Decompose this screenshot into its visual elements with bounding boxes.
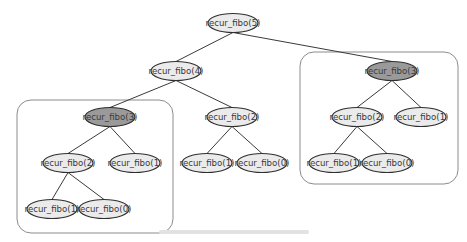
figure-caption (0, 228, 467, 236)
tree-node: recur_fibo(1) (394, 108, 449, 127)
tree-edge (110, 127, 135, 154)
tree-edge (357, 81, 392, 108)
node-label: recur_fibo(0) (360, 158, 415, 168)
tree-node-highlighted: recur_fibo(3) (83, 108, 138, 127)
tree-node: recur_fibo(0) (235, 154, 290, 173)
tree-edge (233, 33, 392, 62)
node-label: recur_fibo(0) (235, 158, 290, 168)
tree-node: recur_fibo(1) (180, 154, 235, 173)
caption-illegible-placeholder (159, 230, 309, 234)
tree-node: recur_fibo(1) (25, 200, 80, 219)
node-label: recur_fibo(2) (41, 158, 96, 168)
tree-node: recur_fibo(2) (330, 108, 385, 127)
tree-node: recur_fibo(5) (206, 14, 261, 33)
tree-node-highlighted: recur_fibo(3) (365, 62, 420, 81)
tree-node: recur_fibo(1) (108, 154, 163, 173)
tree-edge (110, 81, 176, 108)
tree-edge (357, 127, 387, 154)
tree-node: recur_fibo(2) (41, 154, 96, 173)
node-label: recur_fibo(1) (108, 158, 163, 168)
tree-node: recur_fibo(4) (149, 62, 204, 81)
node-label: recur_fibo(1) (394, 112, 449, 122)
call-tree-diagram: recur_fibo(5)recur_fibo(4)recur_fibo(3)r… (0, 0, 467, 242)
tree-edge (334, 127, 357, 154)
node-label: recur_fibo(4) (149, 66, 204, 76)
tree-edge (232, 127, 262, 154)
node-label: recur_fibo(1) (180, 158, 235, 168)
node-label: recur_fibo(3) (83, 112, 138, 122)
node-label: recur_fibo(3) (365, 66, 420, 76)
node-label: recur_fibo(1) (25, 204, 80, 214)
tree-edge (68, 173, 104, 200)
node-label: recur_fibo(2) (205, 112, 260, 122)
node-label: recur_fibo(1) (307, 158, 362, 168)
node-label: recur_fibo(0) (77, 204, 132, 214)
tree-node: recur_fibo(1) (307, 154, 362, 173)
tree-node: recur_fibo(0) (77, 200, 132, 219)
tree-edge (52, 173, 68, 200)
tree-edge (176, 33, 233, 62)
tree-edge (68, 127, 110, 154)
tree-node: recur_fibo(2) (205, 108, 260, 127)
node-label: recur_fibo(2) (330, 112, 385, 122)
tree-edge (176, 81, 232, 108)
tree-edge (392, 81, 421, 108)
node-label: recur_fibo(5) (206, 18, 261, 28)
tree-node: recur_fibo(0) (360, 154, 415, 173)
tree-edge (207, 127, 232, 154)
